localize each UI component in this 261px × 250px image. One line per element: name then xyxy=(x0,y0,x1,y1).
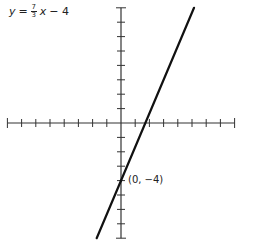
fraction-numerator: 7 xyxy=(32,4,36,11)
equation-rest: − 4 xyxy=(49,5,69,18)
coordinate-plane xyxy=(0,0,261,250)
equation-variable: x xyxy=(40,5,47,18)
equation-label: y = 7 3 x − 4 xyxy=(9,4,69,19)
fraction-denominator: 3 xyxy=(32,12,36,19)
equation-equals: = xyxy=(19,5,28,18)
y-intercept-label: (0, −4) xyxy=(128,174,163,185)
equation-lhs: y xyxy=(9,5,16,18)
y-intercept-point xyxy=(120,179,122,181)
equation-fraction: 7 3 xyxy=(31,4,37,19)
